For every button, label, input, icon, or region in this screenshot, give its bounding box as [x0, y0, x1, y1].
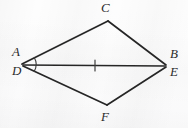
segment-FE — [107, 67, 166, 105]
vertex-label-f: F — [101, 110, 109, 123]
geometry-figure-svg — [0, 0, 188, 128]
geometry-figure-canvas: A D C B E F — [0, 0, 188, 128]
vertex-label-d: D — [12, 64, 21, 77]
segment-DF — [23, 66, 107, 105]
segment-CB — [108, 21, 166, 65]
vertex-label-c: C — [101, 1, 110, 14]
segment-DE — [23, 65, 165, 66]
vertex-label-b: B — [170, 47, 178, 60]
vertex-label-e: E — [170, 65, 178, 78]
figure-segments — [22, 21, 166, 105]
vertex-label-a: A — [12, 45, 20, 58]
